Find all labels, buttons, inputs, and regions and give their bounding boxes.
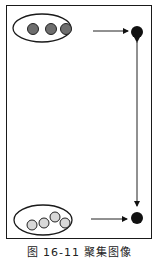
light-circle-icon [60,218,70,228]
bottom-node-icon [131,212,143,224]
top-node-icon [131,26,143,38]
gray-circle-icon [61,24,72,35]
top-cluster [13,14,72,42]
bottom-cluster [14,205,72,235]
gray-circle-icon [28,24,39,35]
light-circle-icon [39,218,49,228]
gray-circle-icon [46,24,57,35]
light-circle-icon [50,212,60,222]
figure-caption: 图 16-11 聚集图像 [0,243,159,259]
light-circle-icon [27,220,37,230]
